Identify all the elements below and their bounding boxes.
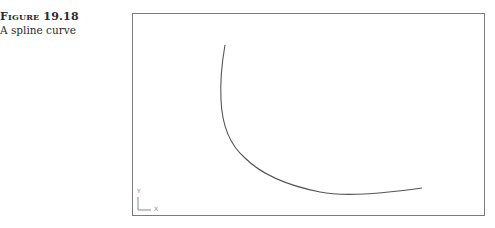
spline-curve [221, 45, 422, 195]
ucs-icon [138, 197, 151, 210]
ucs-y-label: Y [137, 187, 141, 194]
spline-drawing [0, 0, 495, 228]
ucs-x-label: X [154, 205, 158, 212]
